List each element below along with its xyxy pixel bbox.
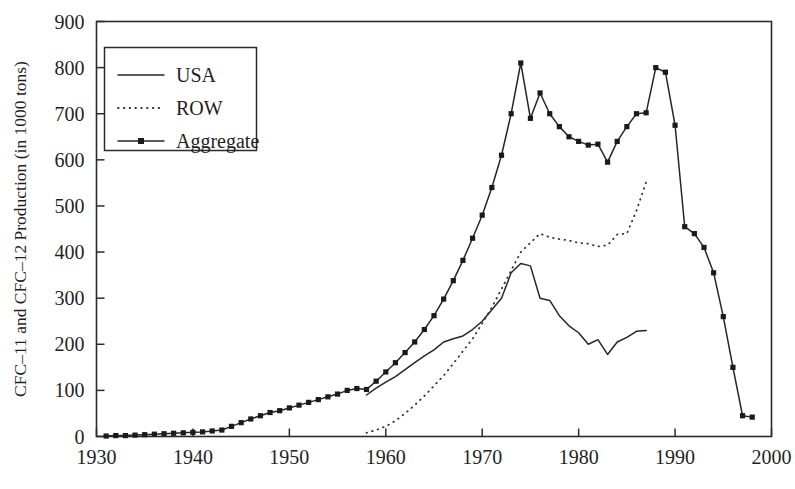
data-point-marker <box>161 431 166 436</box>
data-point-marker <box>480 213 485 218</box>
y-tick-label: 100 <box>55 379 85 401</box>
data-point-marker <box>142 432 147 437</box>
chart-legend: USAROWAggregate <box>105 48 260 154</box>
data-point-marker <box>672 123 677 128</box>
x-tick-label: 1940 <box>173 446 213 468</box>
legend-label: USA <box>176 64 217 86</box>
data-point-marker <box>595 142 600 147</box>
chart-figure: 0100200300400500600700800900 19301940195… <box>0 0 795 489</box>
data-point-marker <box>335 391 340 396</box>
x-tick-label: 1960 <box>366 446 406 468</box>
legend-label: Aggregate <box>176 130 259 153</box>
data-point-marker <box>537 90 542 95</box>
x-tick-label: 1980 <box>559 446 599 468</box>
data-point-marker <box>499 153 504 158</box>
data-point-marker <box>190 430 195 435</box>
data-point-marker <box>123 433 128 438</box>
legend-marker <box>138 138 144 144</box>
data-point-marker <box>239 420 244 425</box>
x-tick-label: 1970 <box>462 446 502 468</box>
cfc-production-line-chart: 0100200300400500600700800900 19301940195… <box>0 0 795 489</box>
data-point-marker <box>644 110 649 115</box>
data-point-marker <box>412 339 417 344</box>
data-point-marker <box>663 70 668 75</box>
y-tick-label: 700 <box>55 103 85 125</box>
series-usa <box>367 264 647 395</box>
data-point-marker <box>181 430 186 435</box>
data-point-marker <box>306 400 311 405</box>
y-tick-label: 600 <box>55 149 85 171</box>
data-point-marker <box>615 139 620 144</box>
data-point-marker <box>287 405 292 410</box>
data-point-marker <box>431 313 436 318</box>
data-point-marker <box>451 278 456 283</box>
data-point-marker <box>219 427 224 432</box>
data-point-marker <box>624 124 629 129</box>
y-axis-ticks <box>97 22 105 437</box>
y-tick-label: 500 <box>55 195 85 217</box>
data-point-marker <box>374 379 379 384</box>
y-tick-label: 200 <box>55 333 85 355</box>
series-path <box>367 182 647 433</box>
data-point-marker <box>721 314 726 319</box>
data-point-marker <box>634 111 639 116</box>
data-point-marker <box>393 360 398 365</box>
data-point-marker <box>518 60 523 65</box>
data-point-marker <box>586 142 591 147</box>
data-point-marker <box>383 369 388 374</box>
data-point-marker <box>325 394 330 399</box>
y-axis-title: CFC–11 and CFC–12 Production (in 1000 to… <box>10 61 30 397</box>
x-tick-label: 1930 <box>77 446 117 468</box>
data-point-marker <box>210 428 215 433</box>
data-point-marker <box>509 111 514 116</box>
data-point-marker <box>104 433 109 438</box>
data-point-marker <box>258 413 263 418</box>
legend-label: ROW <box>176 97 223 119</box>
x-tick-label: 1950 <box>269 446 309 468</box>
y-tick-label: 900 <box>55 11 85 33</box>
data-point-marker <box>682 224 687 229</box>
data-point-marker <box>547 111 552 116</box>
series-row <box>367 182 647 433</box>
data-point-marker <box>316 397 321 402</box>
data-point-marker <box>701 245 706 250</box>
data-point-marker <box>229 424 234 429</box>
data-point-marker <box>557 124 562 129</box>
data-point-marker <box>750 415 755 420</box>
data-point-marker <box>171 431 176 436</box>
y-tick-label: 800 <box>55 57 85 79</box>
data-point-marker <box>441 296 446 301</box>
data-point-marker <box>354 386 359 391</box>
data-point-marker <box>402 350 407 355</box>
data-point-marker <box>422 327 427 332</box>
data-point-marker <box>566 134 571 139</box>
data-point-marker <box>730 365 735 370</box>
x-tick-label: 1990 <box>655 446 695 468</box>
y-tick-label: 400 <box>55 241 85 263</box>
data-point-marker <box>460 258 465 263</box>
data-point-marker <box>277 408 282 413</box>
data-point-marker <box>364 387 369 392</box>
data-point-marker <box>200 429 205 434</box>
data-point-marker <box>489 185 494 190</box>
x-tick-label: 2000 <box>752 446 792 468</box>
series-path <box>367 264 647 395</box>
data-point-marker <box>605 160 610 165</box>
data-point-marker <box>152 432 157 437</box>
x-axis-tick-labels: 19301940195019601970198019902000 <box>77 446 792 468</box>
data-point-marker <box>528 116 533 121</box>
data-point-marker <box>653 65 658 70</box>
data-point-marker <box>711 270 716 275</box>
data-point-marker <box>740 413 745 418</box>
data-point-marker <box>692 231 697 236</box>
y-tick-label: 300 <box>55 287 85 309</box>
y-axis-tick-labels: 0100200300400500600700800900 <box>55 11 85 448</box>
data-point-marker <box>267 410 272 415</box>
data-point-marker <box>113 433 118 438</box>
data-point-marker <box>248 416 253 421</box>
data-point-marker <box>470 236 475 241</box>
data-point-marker <box>576 139 581 144</box>
data-point-marker <box>345 388 350 393</box>
data-point-marker <box>132 433 137 438</box>
y-tick-label: 0 <box>75 426 85 448</box>
